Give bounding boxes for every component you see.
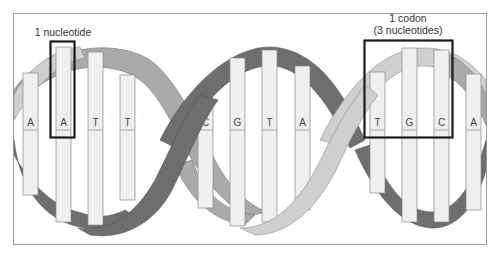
dna-helix-figure: A A T T C — [0, 0, 500, 255]
base-letter: T — [266, 117, 272, 128]
base-bar: G — [402, 48, 417, 222]
base-letter: T — [374, 117, 380, 128]
codon-label-line1: 1 codon — [389, 12, 427, 24]
base-bar: T — [120, 75, 135, 200]
base-letter: G — [234, 117, 242, 128]
base-bar: T — [88, 52, 103, 225]
base-bar: A — [56, 47, 71, 222]
base-letter: G — [406, 117, 414, 128]
base-bar: T — [262, 50, 277, 222]
dna-diagram: A A T T C — [0, 0, 500, 255]
base-letter: A — [299, 117, 306, 128]
nucleotide-label: 1 nucleotide — [35, 26, 92, 38]
codon-label-line2: (3 nucleotides) — [374, 24, 443, 36]
base-bar: A — [23, 73, 38, 195]
base-letter: A — [470, 117, 477, 128]
base-letter: A — [60, 117, 67, 128]
base-letter: T — [92, 117, 98, 128]
base-letter: C — [438, 117, 445, 128]
base-bar: T — [370, 72, 385, 193]
base-letter: A — [27, 117, 34, 128]
base-letter: T — [124, 117, 130, 128]
base-bar: C — [434, 50, 449, 222]
base-bar: A — [466, 74, 481, 210]
base-bar: G — [230, 58, 245, 226]
